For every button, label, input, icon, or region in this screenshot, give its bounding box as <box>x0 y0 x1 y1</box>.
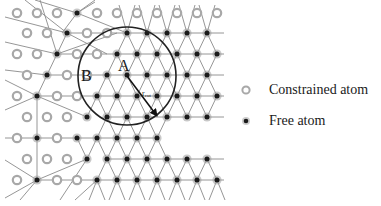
cutoff-radius-label: rcut <box>142 89 151 98</box>
constrained-atom-legend-icon <box>240 84 252 96</box>
legend-constrained-label: Constrained atom <box>269 82 368 98</box>
atomic-lattice-diagram: A B rcut <box>0 0 381 206</box>
atom-label-b: B <box>81 67 92 84</box>
legend-free-label: Free atom <box>269 113 325 129</box>
atoms-layer <box>13 8 222 184</box>
free-atom-legend-icon <box>240 115 252 127</box>
atom-label-a: A <box>118 57 130 74</box>
